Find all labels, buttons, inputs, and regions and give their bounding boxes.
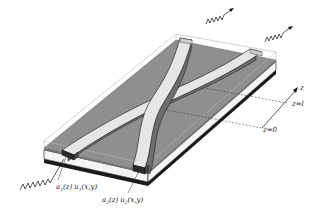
- z-axis: [262, 90, 296, 128]
- z-axis-label: z: [299, 84, 304, 92]
- z-start-label: z=0: [262, 126, 278, 134]
- outgoing-wave-1-icon: [206, 8, 234, 24]
- outgoing-wave-2-icon: [265, 26, 293, 42]
- mode1-label: a1(z)u1(x,y): [56, 183, 97, 192]
- z-end-label: z=l: [291, 100, 304, 108]
- mode2-label: a2(z)u2(x,y): [102, 196, 143, 205]
- coupler-diagram: z z=l z=0 a1(z)u1(x,y) a2(z)u2(x,y): [0, 0, 326, 214]
